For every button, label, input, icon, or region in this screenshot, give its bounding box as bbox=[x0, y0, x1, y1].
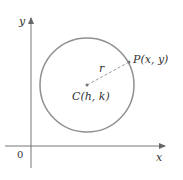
radius-label: r bbox=[99, 62, 105, 75]
radius-line bbox=[87, 62, 129, 85]
origin-label: 0 bbox=[17, 149, 23, 160]
center-point bbox=[86, 84, 89, 87]
center-label: C(h, k) bbox=[72, 90, 110, 103]
x-axis-label: x bbox=[156, 151, 163, 164]
circle-diagram: y x 0 r C(h, k) P(x, y) bbox=[0, 0, 183, 180]
point-label: P(x, y) bbox=[132, 53, 168, 66]
y-axis-label: y bbox=[18, 15, 26, 28]
point-p bbox=[128, 61, 131, 64]
